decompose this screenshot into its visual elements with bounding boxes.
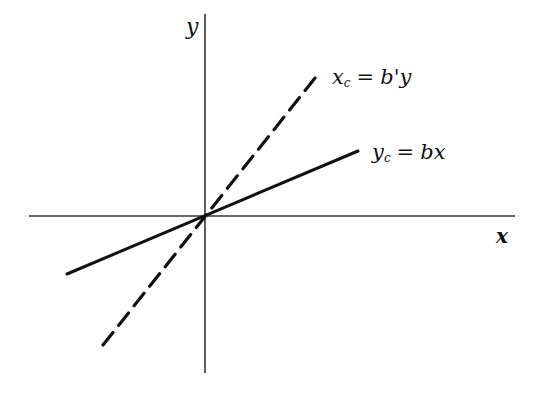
equals-sign: = xyxy=(391,140,421,164)
dashed-line-equation-label: xc=b'y xyxy=(332,67,411,89)
equation-lhs-subscript: c xyxy=(384,151,391,165)
equals-sign: = xyxy=(351,65,381,89)
solid-line-equation-label: yc=bx xyxy=(372,142,446,164)
equation-lhs-var: y xyxy=(372,140,384,164)
equation-lhs-var: x xyxy=(332,65,344,89)
x-axis-label: x xyxy=(496,226,508,246)
y-axis-label: y xyxy=(186,16,198,38)
regression-line-y-on-x-solid xyxy=(67,151,358,274)
regression-line-x-on-y-dashed xyxy=(103,78,315,345)
equation-rhs: b'y xyxy=(380,65,411,89)
regression-lines-diagram xyxy=(0,0,544,395)
equation-rhs: bx xyxy=(420,140,445,164)
equation-lhs-subscript: c xyxy=(344,76,351,90)
